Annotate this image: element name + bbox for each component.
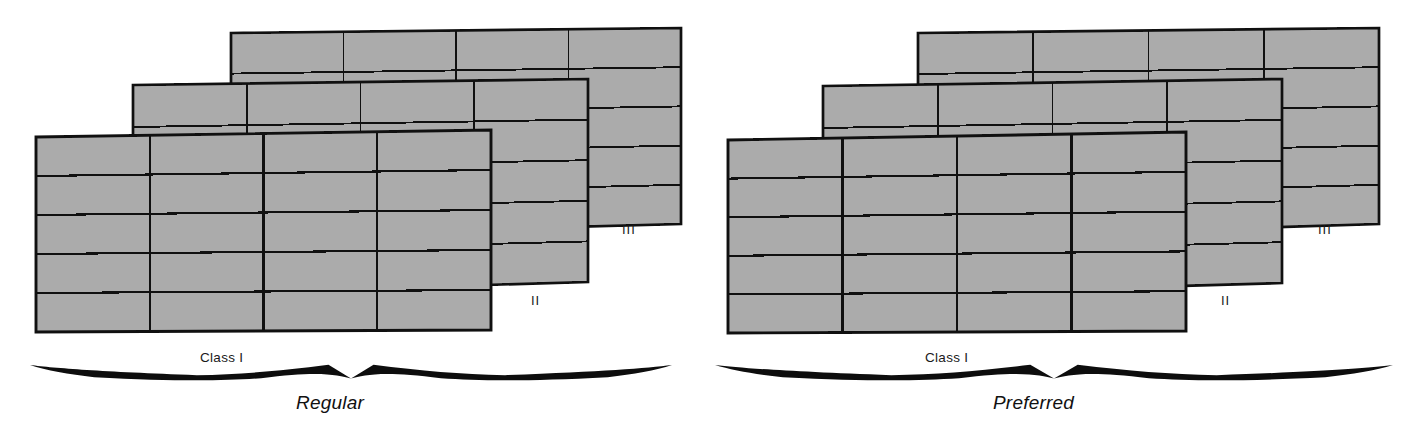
grid-cell: [1072, 251, 1187, 292]
grid-cell: [264, 291, 378, 331]
grid-cell: [938, 83, 1053, 126]
numeral-label-III-regular: III: [622, 222, 636, 237]
panel-regular-graphic: [0, 0, 702, 443]
panel-regular: Class I II III Regular: [0, 0, 702, 443]
layer-class-I-regular: [36, 130, 491, 332]
numeral-label-II-preferred: II: [1221, 293, 1230, 308]
grid-cell: [377, 250, 491, 291]
grid-cell: [377, 210, 491, 251]
grid-cell: [1072, 291, 1187, 331]
grid-cell: [264, 211, 378, 252]
grid-cell: [231, 32, 344, 74]
grid-cell: [150, 173, 264, 214]
grid-cell: [918, 32, 1033, 74]
grid-cell: [36, 253, 150, 293]
grid-cell: [474, 79, 588, 121]
grid-cell: [150, 292, 264, 332]
grid-cell: [843, 214, 958, 254]
grid-cell: [456, 29, 569, 70]
swash-divider-preferred: [715, 365, 1393, 381]
swash-divider-regular: [30, 365, 672, 381]
grid-cell: [843, 293, 958, 333]
grid-cell: [1072, 132, 1187, 174]
grid-cell: [957, 213, 1072, 254]
panel-preferred: Class I II III Preferred: [703, 0, 1405, 443]
grid-cell: [36, 135, 150, 176]
grid-cell: [377, 290, 491, 331]
grid-cell: [728, 216, 843, 256]
grid-cell: [957, 134, 1072, 175]
grid-cell: [843, 136, 958, 177]
grid-cell: [264, 172, 378, 213]
grid-cell: [1053, 81, 1168, 124]
grid-cell: [36, 175, 150, 216]
grid-cell: [377, 130, 491, 172]
grid-cell: [728, 294, 843, 333]
grid-cell: [264, 132, 378, 173]
numeral-label-II-regular: II: [531, 293, 540, 308]
layer-class-I-preferred: [728, 132, 1186, 333]
grid-cell: [1072, 172, 1187, 213]
grid-cell: [569, 28, 682, 69]
grid-cell: [150, 252, 264, 292]
grid-cell: [36, 214, 150, 254]
grid-cell: [264, 251, 378, 292]
caption-regular: Regular: [296, 392, 364, 414]
panel-preferred-graphic: [703, 0, 1405, 443]
grid-cell: [1072, 212, 1187, 253]
grid-cell: [1264, 28, 1379, 69]
class-label-preferred: Class I: [925, 350, 968, 365]
grid-cell: [957, 253, 1072, 293]
grid-cell: [133, 84, 247, 128]
grid-cell: [377, 170, 491, 211]
grid-cell: [344, 31, 457, 73]
grid-cell: [843, 254, 958, 294]
grid-cell: [728, 255, 843, 295]
grid-cell: [1167, 79, 1282, 122]
grid-cell: [1149, 29, 1264, 70]
grid-cell: [957, 174, 1072, 215]
grid-cell: [36, 292, 150, 332]
numeral-label-III-preferred: III: [1318, 222, 1332, 237]
grid-cell: [843, 175, 958, 216]
grid-cell: [823, 84, 938, 128]
grid-cell: [247, 82, 361, 125]
grid-cell: [957, 292, 1072, 332]
grid-cell: [1033, 31, 1148, 73]
caption-preferred: Preferred: [993, 392, 1074, 414]
grid-cell: [150, 213, 264, 254]
grid-cell: [728, 138, 843, 179]
class-label-regular: Class I: [200, 350, 243, 365]
grid-cell: [150, 134, 264, 175]
grid-cell: [728, 177, 843, 217]
grid-cell: [361, 81, 475, 124]
